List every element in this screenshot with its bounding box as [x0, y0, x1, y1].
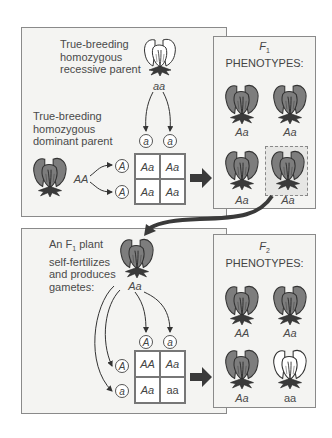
- purple-flower-icon: [222, 283, 262, 327]
- f1-genotype: Aa: [273, 194, 303, 206]
- purple-flower-icon: [270, 82, 310, 126]
- f1-genotype: Aa: [227, 126, 257, 138]
- purple-flower-icon: [268, 148, 308, 192]
- gamete-circle: a: [139, 134, 153, 148]
- recessive-parent-label: True-breeding homozygous recessive paren…: [60, 38, 141, 76]
- gamete-circle: a: [115, 384, 129, 398]
- purple-flower-icon: [117, 236, 157, 280]
- cross2-label: An F1 plant self-fertilizes and produces…: [49, 238, 116, 293]
- purple-flower-icon: [222, 347, 262, 391]
- purple-flower-icon: [270, 283, 310, 327]
- f1-genotype: Aa: [227, 194, 257, 206]
- f1-genotype: Aa: [275, 126, 305, 138]
- purple-flower-icon: [222, 82, 262, 126]
- recessive-parent-genotype: aa: [144, 80, 174, 92]
- punnett-cell: Aa: [135, 179, 160, 204]
- punnett-cell: Aa: [160, 154, 185, 179]
- f1-plant-genotype: Aa: [120, 280, 150, 292]
- purple-flower-icon: [30, 155, 70, 199]
- f2-genotype: Aa: [275, 327, 305, 339]
- punnett-square-2: AA Aa Aa aa: [134, 350, 186, 404]
- punnett-cell: Aa: [160, 179, 185, 204]
- f2-title: F2 PHENOTYPES:: [213, 240, 316, 270]
- white-flower-icon: [140, 36, 180, 78]
- gamete-circle: A: [139, 335, 153, 349]
- f2-genotype: Aa: [227, 392, 257, 404]
- gamete-circle: a: [163, 134, 177, 148]
- gamete-circle: a: [163, 335, 177, 349]
- gamete-circle: A: [115, 185, 129, 199]
- gamete-circle: A: [115, 159, 129, 173]
- punnett-square-1: Aa Aa Aa Aa: [134, 153, 186, 205]
- punnett-cell: Aa: [135, 154, 160, 179]
- f2-genotype: aa: [275, 392, 305, 404]
- punnett-cell: AA: [135, 351, 160, 377]
- f1-title: F1 PHENOTYPES:: [213, 40, 316, 70]
- f2-genotype: AA: [227, 327, 257, 339]
- punnett-cell: Aa: [160, 351, 185, 377]
- purple-flower-icon: [222, 148, 262, 192]
- gamete-circle: A: [115, 359, 129, 373]
- punnett-cell: aa: [160, 377, 185, 403]
- punnett-cell: Aa: [135, 377, 160, 403]
- white-flower-icon: [270, 347, 310, 391]
- dominant-parent-label: True-breeding homozygous dominant parent: [33, 110, 113, 148]
- dominant-parent-genotype: AA: [66, 173, 96, 185]
